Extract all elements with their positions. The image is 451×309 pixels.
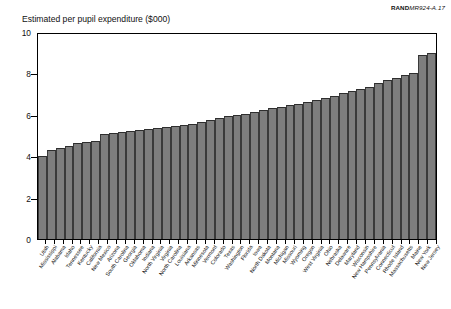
y-axis-tick	[31, 74, 38, 75]
bar	[312, 100, 321, 239]
bar	[38, 156, 47, 239]
y-axis-labels: 0246810	[0, 0, 31, 309]
rand-document-number: MR924-A.17	[409, 4, 445, 11]
bar	[250, 112, 259, 239]
y-axis-tick-label: 6	[5, 111, 31, 121]
bar	[100, 134, 109, 239]
bar	[73, 143, 82, 239]
bar	[339, 93, 348, 239]
bar	[259, 110, 268, 239]
bar	[365, 87, 374, 239]
bar	[206, 120, 215, 239]
bar	[268, 108, 277, 239]
bar	[321, 98, 330, 239]
bar	[374, 83, 383, 239]
bar	[224, 116, 233, 239]
bar	[233, 115, 242, 239]
y-axis-tick-label: 2	[5, 194, 31, 204]
bar	[215, 118, 224, 239]
bar	[153, 128, 162, 239]
bar	[401, 75, 410, 239]
bar	[109, 133, 118, 239]
chart-title: Estimated per pupil expenditure ($000)	[22, 14, 170, 24]
bar	[303, 102, 312, 239]
bar	[294, 104, 303, 239]
y-axis-tick	[31, 157, 38, 158]
chart-figure: RANDMR924-A.17 Estimated per pupil expen…	[0, 0, 451, 309]
y-axis-tick	[31, 199, 38, 200]
bar	[162, 127, 171, 239]
plot-area	[37, 33, 437, 240]
bar	[56, 148, 65, 239]
bar	[409, 73, 418, 239]
bar	[356, 89, 365, 239]
bar	[82, 142, 91, 239]
y-axis-tick-label: 10	[5, 28, 31, 38]
rand-source-id: RANDMR924-A.17	[391, 4, 445, 11]
x-axis-labels: UtahMississippiAlabamaIdahoTennesseeKent…	[37, 244, 437, 309]
bar-series	[38, 34, 436, 239]
bar	[427, 53, 436, 239]
y-axis-tick-label: 0	[5, 235, 31, 245]
y-axis-tick-label: 4	[5, 152, 31, 162]
bar	[418, 55, 427, 240]
bar	[348, 91, 357, 239]
bar	[383, 80, 392, 239]
bar	[241, 114, 250, 239]
rand-brand-label: RAND	[391, 4, 409, 11]
y-axis-tick-label: 8	[5, 69, 31, 79]
y-axis-tick	[31, 116, 38, 117]
bar	[47, 150, 56, 239]
